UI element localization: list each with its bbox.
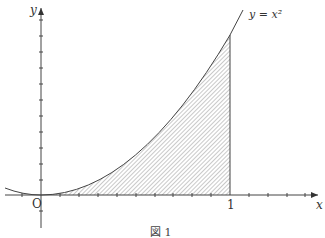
x-axis-label: x [316,199,323,211]
curve-label: y = x² [249,9,282,20]
shaded-area [41,35,230,195]
origin-label: O [32,198,42,210]
y-axis-label: y [30,4,37,16]
x-tick-label-1: 1 [227,199,235,211]
figure-canvas [0,0,325,238]
figure-caption: 図 1 [150,223,172,238]
y-axis-arrow-icon [38,8,44,15]
